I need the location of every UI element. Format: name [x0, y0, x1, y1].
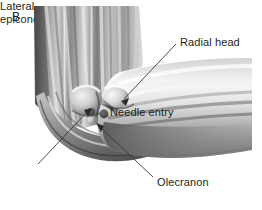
figure-panel: B Radial head Needle entry Olecranon Lat…: [0, 0, 262, 210]
label-olecranon: Olecranon: [157, 176, 209, 189]
label-needle-entry: Needle entry: [110, 106, 174, 119]
needle-entry-dot-lateral: [100, 110, 109, 119]
elbow-anatomy-illustration: [0, 0, 262, 210]
label-radial-head: Radial head: [180, 36, 240, 49]
panel-label-b: B: [12, 11, 20, 24]
